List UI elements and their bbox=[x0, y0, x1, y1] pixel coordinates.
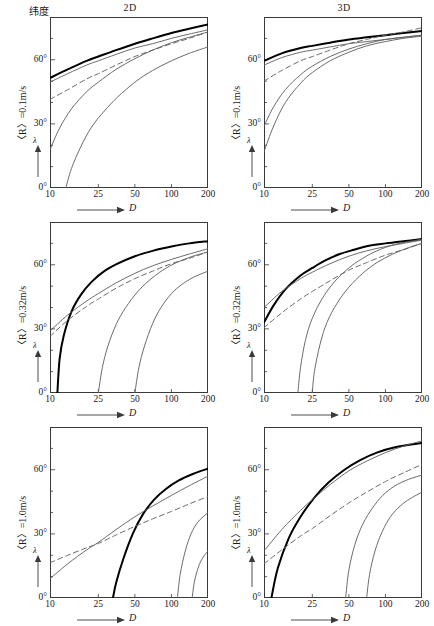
y-tick-label: 60° bbox=[24, 259, 47, 269]
x-tick-label: 10 bbox=[250, 599, 278, 609]
x-tick-label: 50 bbox=[335, 599, 363, 609]
y-tick-label: 60° bbox=[238, 259, 261, 269]
y-axis-arrow-icon bbox=[34, 555, 44, 589]
row-label-panel-3d-r10: 〈R〉=1.0m/s bbox=[228, 496, 243, 555]
x-tick-label: 50 bbox=[335, 394, 363, 404]
x-tick-label: 200 bbox=[194, 394, 222, 404]
x-tick-label: 25 bbox=[84, 394, 112, 404]
x-tick-label: 25 bbox=[298, 394, 326, 404]
x-tick-label: 200 bbox=[194, 189, 222, 199]
y-axis-name: λ bbox=[247, 545, 251, 555]
x-axis-arrow-icon bbox=[77, 616, 125, 626]
curve-thin-solid-lower bbox=[192, 551, 208, 598]
curve-thin-solid-lower bbox=[264, 36, 422, 151]
y-tick-label: 60° bbox=[24, 464, 47, 474]
x-tick-label: 100 bbox=[371, 189, 399, 199]
plot-curves bbox=[50, 222, 208, 393]
x-tick-label: 50 bbox=[121, 189, 149, 199]
y-tick-label: 60° bbox=[238, 54, 261, 64]
curve-dashed bbox=[50, 496, 208, 562]
x-tick-label: 100 bbox=[157, 189, 185, 199]
x-tick-label: 200 bbox=[408, 189, 434, 199]
plot-panel-panel-3d-r01 bbox=[264, 17, 422, 188]
x-tick-label: 25 bbox=[84, 599, 112, 609]
plot-panel-panel-3d-r032 bbox=[264, 222, 422, 393]
plot-panel-panel-2d-r032 bbox=[50, 222, 208, 393]
y-axis-name: λ bbox=[33, 340, 37, 350]
plot-curves bbox=[50, 17, 208, 188]
y-tick-label: 60° bbox=[24, 54, 47, 64]
x-axis-arrow-icon bbox=[291, 411, 339, 421]
x-axis-name: D bbox=[129, 612, 136, 623]
curve-thick-solid bbox=[113, 469, 208, 598]
curve-thick-solid bbox=[271, 443, 422, 598]
curve-dashed bbox=[264, 464, 422, 563]
y-axis-name: λ bbox=[33, 545, 37, 555]
x-axis-name: D bbox=[343, 202, 350, 213]
plot-panel-panel-3d-r10 bbox=[264, 427, 422, 598]
curve-thin-solid-upper bbox=[50, 249, 208, 331]
curve-thin-solid-lower bbox=[135, 271, 208, 393]
curve-thin-solid-lower bbox=[312, 243, 422, 393]
x-axis-arrow-icon bbox=[77, 411, 125, 421]
row-label-panel-2d-r032: 〈R〉=0.32m/s bbox=[14, 286, 29, 350]
x-tick-label: 10 bbox=[250, 189, 278, 199]
y-axis-arrow-icon bbox=[248, 350, 258, 384]
x-tick-label: 50 bbox=[335, 189, 363, 199]
plot-curves bbox=[50, 427, 208, 598]
x-tick-label: 100 bbox=[157, 599, 185, 609]
x-axis-arrow-icon bbox=[77, 206, 125, 216]
x-axis-arrow-icon bbox=[291, 206, 339, 216]
x-tick-label: 50 bbox=[121, 394, 149, 404]
curve-thick-solid bbox=[57, 241, 208, 393]
x-tick-label: 25 bbox=[298, 599, 326, 609]
curve-thin-solid-upper bbox=[264, 240, 422, 307]
row-label-panel-2d-r10: 〈R〉=1.0m/s bbox=[14, 496, 29, 555]
curve-thin-solid-lower bbox=[66, 47, 208, 188]
column-header-2d: 2D bbox=[50, 2, 210, 13]
plot-panel-panel-2d-r01 bbox=[50, 17, 208, 188]
curve-thin-solid-mid bbox=[298, 239, 422, 393]
plot-curves bbox=[264, 17, 422, 188]
y-axis-arrow-icon bbox=[34, 350, 44, 384]
x-tick-label: 25 bbox=[84, 189, 112, 199]
row-label-panel-3d-r032: 〈R〉=0.32m/s bbox=[228, 286, 243, 350]
y-axis-name: λ bbox=[247, 135, 251, 145]
plot-curves bbox=[264, 427, 422, 598]
x-tick-label: 100 bbox=[371, 394, 399, 404]
y-axis-arrow-icon bbox=[248, 555, 258, 589]
x-tick-label: 100 bbox=[157, 394, 185, 404]
curve-thick-solid bbox=[50, 24, 208, 77]
x-tick-label: 10 bbox=[36, 189, 64, 199]
plot-curves bbox=[264, 222, 422, 393]
x-axis-name: D bbox=[343, 612, 350, 623]
x-axis-name: D bbox=[129, 407, 136, 418]
curve-thin-solid-upper bbox=[264, 441, 422, 551]
x-tick-label: 50 bbox=[121, 599, 149, 609]
x-tick-label: 10 bbox=[36, 394, 64, 404]
plot-panel-panel-2d-r10 bbox=[50, 427, 208, 598]
y-axis-name: λ bbox=[247, 340, 251, 350]
curve-thin-solid-mid bbox=[264, 35, 422, 126]
row-label-panel-3d-r01: 〈R〉=0.1m/s bbox=[228, 86, 243, 145]
curve-thin-solid-mid bbox=[177, 513, 208, 599]
x-tick-label: 200 bbox=[408, 394, 434, 404]
x-tick-label: 10 bbox=[36, 599, 64, 609]
x-axis-name: D bbox=[129, 202, 136, 213]
y-tick-label: 60° bbox=[238, 464, 261, 474]
y-axis-arrow-icon bbox=[248, 145, 258, 179]
x-tick-label: 10 bbox=[250, 394, 278, 404]
y-axis-name: λ bbox=[33, 135, 37, 145]
curve-thin-solid-upper bbox=[50, 30, 208, 82]
x-axis-name: D bbox=[343, 407, 350, 418]
row-label-panel-2d-r01: 〈R〉=0.1m/s bbox=[14, 86, 29, 145]
x-axis-arrow-icon bbox=[291, 616, 339, 626]
latitude-label: 纬度 bbox=[29, 3, 49, 18]
curve-thin-solid-upper bbox=[50, 476, 208, 579]
x-tick-label: 100 bbox=[371, 599, 399, 609]
x-tick-label: 200 bbox=[194, 599, 222, 609]
column-header-3d: 3D bbox=[264, 2, 424, 13]
x-tick-label: 200 bbox=[408, 599, 434, 609]
curve-thin-solid-mid bbox=[346, 475, 422, 598]
